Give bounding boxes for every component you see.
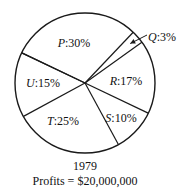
slice-label-t: T:25% <box>47 114 79 128</box>
slice-label-r: R:17% <box>109 74 143 88</box>
chart-subtitle: Profits = $20,000,000 <box>33 174 138 188</box>
slice-label-s: S:10% <box>105 111 136 125</box>
chart-title: 1979 <box>73 159 97 173</box>
slice-label-u: U:15% <box>26 76 60 90</box>
slice-label-p: P:30% <box>57 36 91 50</box>
pie-chart: P:30%Q:3%R:17%S:10%T:25%U:15% 1979 Profi… <box>0 0 181 193</box>
slice-label-q: Q:3% <box>148 30 176 44</box>
